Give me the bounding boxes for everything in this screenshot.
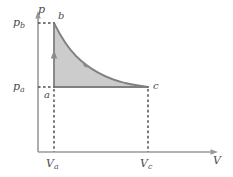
y-tick-pb-subscript: b [20, 21, 25, 30]
y-tick-pa-subscript: a [20, 85, 25, 94]
y-axis-label: p [38, 4, 45, 15]
x-tick-label-Vc: Vc [140, 158, 152, 171]
x-tick-Va-base: V [46, 157, 54, 170]
state-point-b-marker [53, 22, 55, 24]
work-area-shading [54, 23, 148, 87]
x-tick-Vc-base: V [140, 157, 148, 170]
x-tick-Va-subscript: a [54, 162, 59, 171]
state-point-a-marker [53, 86, 55, 88]
state-point-label-b: b [58, 11, 64, 21]
state-point-label-a: a [44, 90, 50, 100]
state-point-label-c: c [153, 81, 159, 91]
y-tick-pb-base: p [13, 16, 20, 29]
y-tick-label-pa: pa [13, 81, 25, 94]
y-tick-label-pb: pb [13, 17, 25, 30]
x-axis-label: V [213, 155, 221, 166]
pv-diagram-canvas [0, 0, 233, 177]
state-point-c-marker [147, 86, 149, 88]
pv-diagram-figure: p V pb pa Va Vc a b c [0, 0, 233, 177]
x-tick-Vc-subscript: c [148, 162, 152, 171]
x-tick-label-Va: Va [46, 158, 59, 171]
y-tick-pa-base: p [13, 80, 20, 93]
